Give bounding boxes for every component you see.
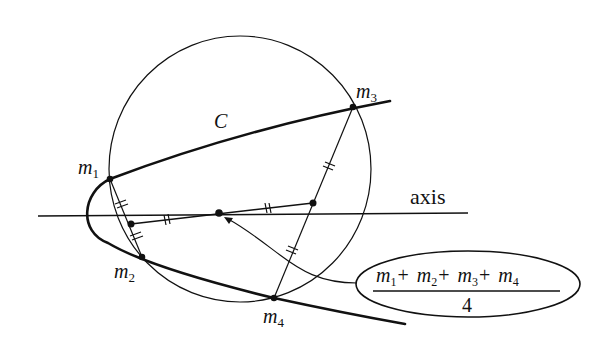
points (107, 104, 357, 302)
label-m3: m3 (356, 80, 377, 105)
formula-numerator: m1+ m2+ m3+ m4 (376, 264, 519, 289)
point-m4 (271, 295, 278, 302)
midpoint-m3-m4 (310, 200, 317, 207)
axis-line (38, 213, 468, 216)
point-m1 (107, 176, 114, 183)
label-m2: m2 (114, 260, 135, 285)
chord-m1-m2 (110, 179, 142, 257)
point-m2 (139, 254, 146, 261)
axis-label: axis (410, 184, 445, 209)
label-m1: m1 (78, 156, 99, 181)
curve-label-c: C (214, 110, 228, 132)
centroid-point (215, 209, 223, 217)
label-m4: m4 (263, 305, 284, 330)
midpoint-m1-m2 (128, 221, 135, 228)
centroid-pointer-arrow (228, 219, 357, 283)
parabola-circle-diagram: C axis m1 m2 m3 m4 m1+ m2+ m3+ m4 4 (0, 0, 613, 343)
equal-length-ticks (115, 162, 335, 254)
formula-denominator: 4 (462, 294, 472, 316)
point-m3 (350, 104, 357, 111)
